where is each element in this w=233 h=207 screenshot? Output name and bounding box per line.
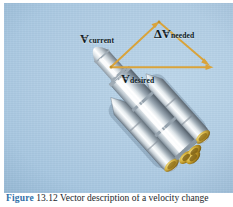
label-v-current-symbol: → V [80,33,89,46]
label-v-desired-subscript: desired [130,76,154,85]
figure-caption: Figure 13.12 Vector description of a vel… [6,194,208,204]
figure-number: Figure [6,194,34,203]
label-delta-v-subscript: needed [171,31,194,40]
label-v-current: → V current [80,30,114,46]
label-delta-v-symbol: → V [162,28,171,41]
vector-accent-icon: → [121,72,130,81]
delta-symbol: Δ [154,27,162,41]
figure-caption-text: 13.12 Vector description of a velocity c… [36,194,208,203]
label-delta-v-needed: Δ → V needed [154,25,194,41]
vector-accent-icon: → [80,32,89,41]
figure-photo-plate: → V current Δ → V needed → V desired [4,3,233,193]
label-v-desired-symbol: → V [121,73,130,86]
vector-accent-icon: → [162,27,171,36]
label-v-current-subscript: current [89,36,114,45]
figure-caption-strip: Figure 13.12 Vector description of a vel… [4,194,233,207]
label-v-desired: → V desired [121,70,154,86]
figure-container: → V current Δ → V needed → V desired Fig… [0,0,233,207]
vector-triangle [4,3,233,193]
vector-v-current [111,21,160,67]
